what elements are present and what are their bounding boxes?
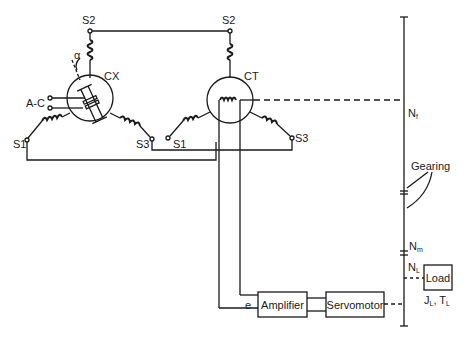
servomotor-label: Servomotor: [326, 292, 384, 317]
cx-rotor: [77, 84, 107, 123]
label-ct-s2: S2: [222, 15, 235, 26]
label-load-params: JL, TL: [424, 295, 450, 307]
label-ct-s1: S1: [173, 139, 186, 150]
gearing-arrow-icon: [407, 172, 428, 188]
label-ct: CT: [244, 71, 259, 82]
label-cx-s2: S2: [82, 15, 95, 26]
load-t-sub: L: [446, 300, 450, 307]
load-label: Load: [424, 265, 452, 290]
nf-main: N: [408, 107, 416, 119]
label-ct-s3: S3: [295, 133, 308, 144]
nm-sub: m: [417, 246, 423, 253]
label-cx-s3: S3: [136, 139, 149, 150]
nl-main: N: [408, 261, 416, 273]
coil-icon: [88, 40, 93, 60]
amplifier-label: Amplifier: [258, 292, 307, 317]
label-alpha: α: [74, 50, 80, 61]
load-sep: ,: [433, 294, 436, 306]
terminal-cx-s2: [88, 29, 92, 33]
label-gearing: Gearing: [411, 161, 450, 172]
label-nf: Nf: [408, 108, 418, 120]
label-cx-s1: S1: [13, 139, 26, 150]
schematic-drawing: [0, 0, 465, 340]
nl-sub: L: [416, 267, 420, 274]
label-error-signal: e: [245, 300, 251, 311]
label-nm: Nm: [409, 241, 423, 253]
label-ac: A-C: [26, 98, 45, 109]
nm-main: N: [409, 240, 417, 252]
label-cx: CX: [104, 71, 119, 82]
label-nl: NL: [408, 262, 420, 274]
nf-sub: f: [416, 113, 418, 120]
